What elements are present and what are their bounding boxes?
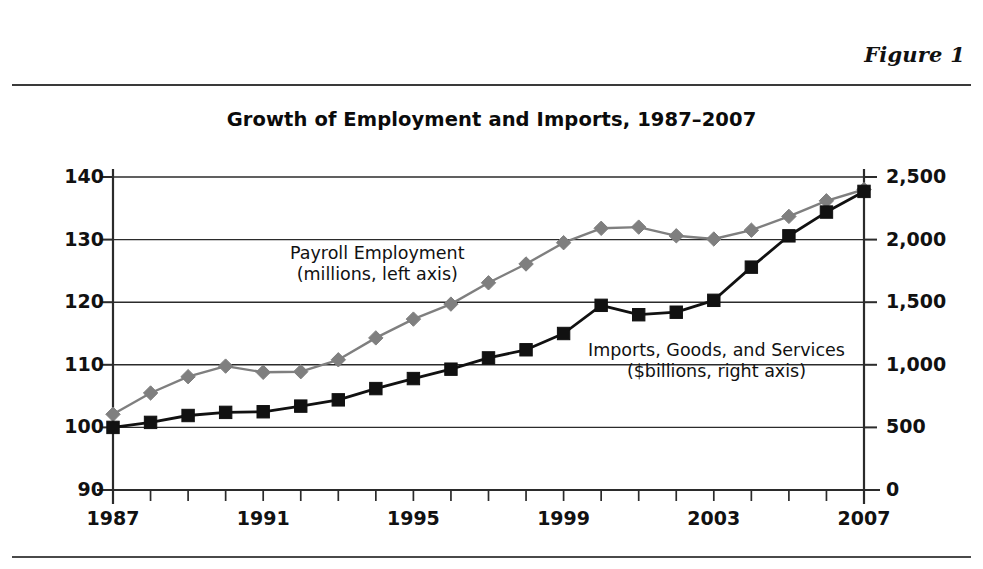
xtick-label-1995: 1995: [363, 509, 463, 528]
ytick-label-right-500: 500: [886, 417, 983, 436]
datapoint-imports-2003: [708, 294, 720, 306]
series-label-payroll-employment-line2: (millions, left axis): [290, 264, 465, 285]
datapoint-payroll-employment-2003: [707, 232, 721, 246]
line-chart-svg: [0, 0, 983, 569]
datapoint-payroll-employment-2000: [594, 221, 608, 235]
datapoint-imports-1989: [182, 409, 194, 421]
datapoint-payroll-employment-2002: [669, 229, 684, 243]
datapoint-imports-1996: [445, 363, 457, 375]
datapoint-imports-1995: [407, 372, 419, 384]
datapoint-imports-1988: [144, 416, 156, 428]
datapoint-imports-1997: [482, 352, 494, 364]
datapoint-payroll-employment-1992: [294, 365, 308, 379]
datapoint-imports-1987: [107, 421, 119, 433]
datapoint-imports-1990: [219, 406, 231, 418]
series-label-payroll-employment: Payroll Employment (millions, left axis): [290, 243, 465, 286]
chart-plot-area: 9010011012013014005001,0001,5002,0002,50…: [0, 0, 983, 569]
ytick-label-right-1000: 1,000: [886, 355, 983, 374]
datapoint-imports-1998: [520, 344, 532, 356]
datapoint-imports-1993: [332, 394, 344, 406]
datapoint-imports-2006: [820, 206, 832, 218]
datapoint-payroll-employment-1999: [556, 236, 570, 250]
datapoint-payroll-employment-1989: [181, 370, 195, 384]
datapoint-payroll-employment-1998: [519, 257, 534, 271]
datapoint-payroll-employment-1995: [406, 312, 420, 326]
ytick-label-right-2500: 2,500: [886, 167, 983, 186]
ytick-label-right-2000: 2,000: [886, 230, 983, 249]
datapoint-payroll-employment-2004: [744, 223, 759, 237]
datapoint-imports-2004: [745, 261, 757, 273]
datapoint-payroll-employment-1987: [106, 407, 120, 421]
series-label-imports-line2: ($billions, right axis): [588, 361, 845, 382]
datapoint-payroll-employment-1990: [218, 359, 232, 373]
datapoint-imports-1992: [295, 400, 307, 412]
ytick-label-left-100: 100: [20, 417, 104, 436]
datapoint-imports-1999: [557, 327, 569, 339]
xtick-label-1987: 1987: [63, 509, 163, 528]
series-label-imports-line1: Imports, Goods, and Services: [588, 340, 845, 361]
series-label-payroll-employment-line1: Payroll Employment: [290, 243, 465, 264]
series-label-imports: Imports, Goods, and Services ($billions,…: [588, 340, 845, 383]
datapoint-imports-2002: [670, 306, 682, 318]
datapoint-imports-1994: [370, 382, 382, 394]
xtick-label-1991: 1991: [213, 509, 313, 528]
datapoint-imports-2005: [783, 230, 795, 242]
datapoint-payroll-employment-1997: [481, 276, 495, 290]
datapoint-payroll-employment-1988: [143, 386, 157, 400]
ytick-label-left-110: 110: [20, 355, 104, 374]
xtick-label-1999: 1999: [514, 509, 614, 528]
ytick-label-left-120: 120: [20, 292, 104, 311]
datapoint-imports-1991: [257, 406, 269, 418]
ytick-label-right-0: 0: [886, 480, 983, 499]
datapoint-payroll-employment-1996: [444, 297, 458, 311]
datapoint-imports-2000: [595, 299, 607, 311]
divider-bottom: [12, 556, 971, 558]
ytick-label-right-1500: 1,500: [886, 292, 983, 311]
datapoint-payroll-employment-1991: [256, 365, 270, 379]
datapoint-payroll-employment-2005: [782, 209, 796, 223]
datapoint-payroll-employment-2001: [632, 220, 646, 234]
datapoint-payroll-employment-1994: [369, 331, 383, 345]
ytick-label-left-130: 130: [20, 230, 104, 249]
figure-container: Figure 1 Growth of Employment and Import…: [0, 0, 983, 569]
ytick-label-left-90: 90: [20, 480, 104, 499]
xtick-label-2003: 2003: [664, 509, 764, 528]
datapoint-imports-2001: [633, 309, 645, 321]
xtick-label-2007: 2007: [814, 509, 914, 528]
ytick-label-left-140: 140: [20, 167, 104, 186]
datapoint-imports-2007: [858, 185, 870, 197]
